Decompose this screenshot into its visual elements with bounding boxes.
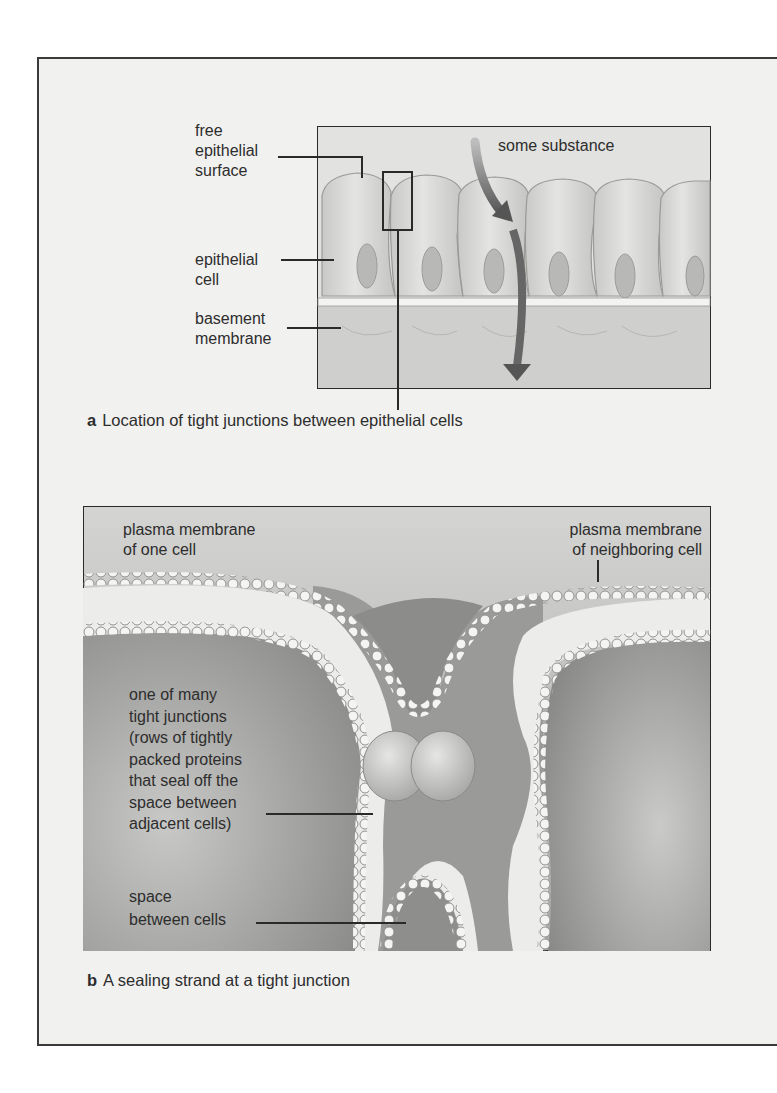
label-some-substance: some substance	[498, 136, 615, 156]
leader-line	[278, 156, 362, 158]
leader-line	[256, 922, 406, 924]
label-plasma-membrane-one-cell: plasma membrane of one cell	[123, 520, 256, 560]
caption-a-letter: a	[87, 411, 96, 429]
label-space-between-cells: space between cells	[129, 885, 226, 931]
label-tight-junctions: one of many tight junctions (rows of tig…	[129, 684, 242, 835]
leader-line	[266, 813, 373, 815]
callout-line	[397, 230, 399, 410]
label-epithelial-cell: epithelial cell	[195, 250, 258, 290]
leader-line	[281, 259, 334, 261]
leader-line	[361, 156, 363, 178]
caption-b: bA sealing strand at a tight junction	[87, 971, 350, 990]
leader-line	[287, 327, 341, 329]
caption-b-letter: b	[87, 971, 97, 989]
label-basement-membrane: basement membrane	[195, 309, 271, 349]
caption-a-text: Location of tight junctions between epit…	[102, 411, 462, 429]
label-free-epithelial-surface: free epithelial surface	[195, 121, 258, 181]
label-plasma-membrane-neighboring-cell: plasma membrane of neighboring cell	[447, 520, 702, 560]
caption-a: aLocation of tight junctions between epi…	[87, 411, 463, 430]
epithelium-illustration	[317, 126, 711, 389]
leader-line	[597, 560, 599, 582]
caption-b-text: A sealing strand at a tight junction	[103, 971, 350, 989]
